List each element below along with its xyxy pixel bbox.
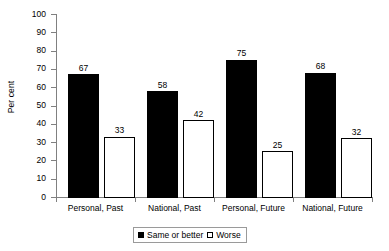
bar-personal-future-same-or-better <box>226 60 257 198</box>
y-axis-tick <box>51 179 56 180</box>
y-axis-tick <box>51 14 56 15</box>
bar-chart: Per cent 100 90 80 70 60 50 40 30 20 10 … <box>0 0 389 251</box>
y-axis-tick-label: 100 <box>6 10 46 19</box>
bar-personal-past-worse <box>104 137 135 198</box>
x-axis-category-label-personal-past: Personal, Past <box>56 203 135 214</box>
y-axis-tick <box>51 124 56 125</box>
y-axis-tick <box>51 32 56 33</box>
y-axis-tick <box>51 87 56 88</box>
bar-value-national-future-worse: 32 <box>341 128 372 137</box>
bar-value-personal-future-same-or-better: 75 <box>226 49 257 58</box>
bar-national-future-same-or-better <box>305 73 336 198</box>
x-axis-tick <box>293 197 294 202</box>
y-axis-tick-label: 50 <box>6 101 46 110</box>
bar-national-past-same-or-better <box>147 91 178 198</box>
bar-value-personal-future-worse: 25 <box>262 141 293 150</box>
y-axis-tick-label: 40 <box>6 119 46 128</box>
legend-entry-same-or-better: Same or better <box>138 230 203 240</box>
bar-value-personal-past-worse: 33 <box>104 126 135 135</box>
y-axis-tick <box>51 160 56 161</box>
bar-national-past-worse <box>183 120 214 198</box>
x-axis-tick <box>214 197 215 202</box>
y-axis-tick <box>51 69 56 70</box>
bar-value-national-past-same-or-better: 58 <box>147 81 178 90</box>
x-axis-category-label-national-past: National, Past <box>135 203 214 214</box>
legend-swatch-open-square-icon <box>207 232 213 238</box>
chart-legend: Same or better Worse <box>133 227 247 243</box>
y-axis-tick <box>51 106 56 107</box>
legend-entry-worse: Worse <box>207 230 240 240</box>
x-axis-tick <box>372 197 373 202</box>
bar-value-national-past-worse: 42 <box>183 110 214 119</box>
y-axis-tick-label: 20 <box>6 156 46 165</box>
y-axis-tick <box>51 142 56 143</box>
x-axis-category-label-personal-future: Personal, Future <box>214 203 293 214</box>
y-axis-line <box>56 14 57 198</box>
bar-value-national-future-same-or-better: 68 <box>305 62 336 71</box>
y-axis-tick-label: 30 <box>6 138 46 147</box>
y-axis-title: Per cent <box>6 67 16 127</box>
x-axis-tick <box>56 197 57 202</box>
y-axis-tick-label: 90 <box>6 28 46 37</box>
bar-value-personal-past-same-or-better: 67 <box>68 64 99 73</box>
y-axis-tick-label: 70 <box>6 64 46 73</box>
y-axis-tick-label: 0 <box>6 193 46 202</box>
bar-personal-past-same-or-better <box>68 74 99 198</box>
legend-label-worse: Worse <box>216 230 240 240</box>
bar-national-future-worse <box>341 138 372 198</box>
y-axis-tick-label: 60 <box>6 83 46 92</box>
bar-personal-future-worse <box>262 151 293 198</box>
x-axis-tick <box>135 197 136 202</box>
legend-swatch-filled-square-icon <box>138 232 144 238</box>
x-axis-category-label-national-future: National, Future <box>293 203 372 214</box>
y-axis-tick-label: 10 <box>6 174 46 183</box>
legend-label-same-or-better: Same or better <box>147 230 203 240</box>
y-axis-tick-label: 80 <box>6 46 46 55</box>
y-axis-tick <box>51 51 56 52</box>
